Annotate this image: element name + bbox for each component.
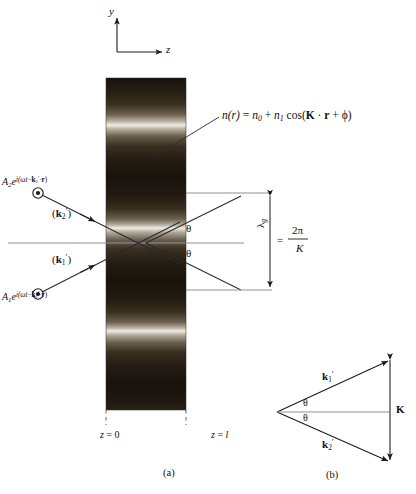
- grating-period-equals: =: [277, 235, 283, 246]
- wavevector-k1-label: (k1′): [52, 253, 71, 266]
- index-equation-close: ): [348, 109, 352, 121]
- z0-variable: z: [100, 429, 104, 440]
- vector-k1-label: k1′: [322, 370, 334, 383]
- index-equation-n0-sub: 0: [258, 114, 262, 123]
- index-equation-equals: =: [243, 109, 250, 121]
- axis-y-label: y: [109, 6, 114, 17]
- k1-paren-close: ): [67, 253, 71, 265]
- k2-paren-close: ): [67, 207, 71, 219]
- wavevector-k2-label: (k2′): [52, 207, 71, 220]
- index-equation-r: r: [324, 109, 329, 121]
- wave-1-exp-close: ): [45, 291, 47, 299]
- z0-value: 0: [115, 429, 120, 440]
- zl-variable: z: [211, 429, 215, 440]
- caption-part-b: (b): [326, 470, 338, 481]
- index-equation: n(r) = n0 + n1 cos(K · r + ϕ): [222, 110, 352, 123]
- incident-wave-1-label: A1ei(ωt−k1′·r): [2, 291, 47, 304]
- theta-lower-label: θ: [186, 248, 191, 259]
- wave-2-exponent: i(ωt−k2′·r): [16, 176, 47, 184]
- grating-period-dimension: [186, 193, 308, 290]
- incident-wave-2-label: A2ei(ωt−k2′·r): [2, 176, 47, 189]
- index-equation-cos: cos(: [287, 109, 306, 121]
- vector-K-label: K: [396, 404, 405, 415]
- index-equation-plus-1: +: [265, 109, 272, 121]
- caption-part-a: (a): [163, 468, 175, 479]
- index-equation-plus-2: +: [332, 109, 339, 121]
- figure-root: y z n(r) = n0 + n1 cos(K · r + ϕ) A2ei(ω…: [0, 0, 416, 494]
- wave-1-exponent: i(ωt−k1′·r): [16, 291, 47, 299]
- index-equation-K: K: [306, 109, 315, 121]
- vector-theta-upper-label: θ: [303, 398, 308, 408]
- grating-period-numerator: 2π: [292, 225, 303, 236]
- boundary-zl-label: z = l: [211, 430, 228, 440]
- zl-equals: =: [217, 429, 223, 440]
- grating-period-label: λg: [255, 219, 268, 228]
- coordinate-axes: [117, 18, 162, 52]
- index-equation-n1-sub: 1: [280, 114, 284, 123]
- lambda-symbol: λ: [254, 223, 266, 228]
- wave-2-exp-close: ): [45, 176, 47, 184]
- source-2-dot: [36, 191, 40, 195]
- index-equation-n: n(r): [222, 109, 240, 121]
- vector-k1-prime: ′: [332, 369, 334, 379]
- boundary-guides: [106, 410, 186, 425]
- grating-slab-fill: [106, 78, 186, 410]
- incident-beam-2-arrow: [80, 214, 95, 222]
- lambda-subscript: g: [259, 219, 268, 223]
- z0-equals: =: [106, 429, 112, 440]
- figure-graphics: [0, 0, 416, 494]
- index-equation-dot: ·: [318, 109, 322, 121]
- incident-beam-1-arrow: [80, 265, 95, 273]
- grating-period-denominator: K: [296, 243, 303, 254]
- grating-slab: [106, 78, 186, 410]
- vector-k2-prime: ′: [332, 437, 334, 447]
- boundary-z0-label: z = 0: [100, 430, 120, 440]
- vector-theta-lower-label: θ: [303, 413, 308, 423]
- zl-value: l: [226, 429, 229, 440]
- axis-z-label: z: [166, 44, 170, 55]
- theta-upper-label: θ: [186, 223, 191, 234]
- vector-k2-label: k2′: [322, 438, 334, 451]
